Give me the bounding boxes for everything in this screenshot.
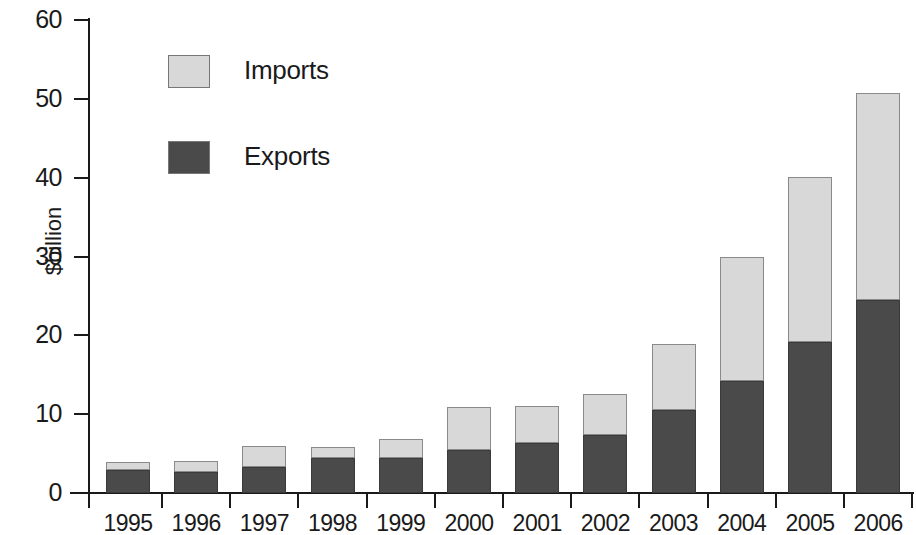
bar-group[interactable] bbox=[652, 20, 696, 493]
x-tick-mark bbox=[366, 494, 368, 508]
x-tick-label: 1999 bbox=[366, 512, 436, 535]
x-tick-mark bbox=[707, 494, 709, 508]
x-tick-mark bbox=[297, 494, 299, 508]
y-tick-label: 40 bbox=[10, 165, 62, 190]
legend-swatch bbox=[168, 141, 210, 174]
bar-group[interactable] bbox=[174, 20, 218, 493]
x-tick-mark bbox=[911, 494, 913, 508]
bar-segment-exports[interactable] bbox=[242, 467, 286, 493]
legend-swatch bbox=[168, 55, 210, 88]
bar-segment-imports[interactable] bbox=[788, 177, 832, 342]
x-tick-label: 2002 bbox=[570, 512, 640, 535]
x-tick-mark bbox=[88, 494, 90, 508]
bar-group[interactable] bbox=[311, 20, 355, 493]
bar-chart: $billion 0102030405060 19951996199719981… bbox=[0, 0, 916, 535]
y-tick-label: 30 bbox=[10, 244, 62, 269]
x-tick-mark bbox=[570, 494, 572, 508]
bar-segment-exports[interactable] bbox=[447, 450, 491, 493]
bar-group[interactable] bbox=[379, 20, 423, 493]
bar-segment-imports[interactable] bbox=[311, 447, 355, 457]
bar-group[interactable] bbox=[856, 20, 900, 493]
bar-group[interactable] bbox=[447, 20, 491, 493]
bar-segment-exports[interactable] bbox=[106, 470, 150, 493]
x-tick-label: 2003 bbox=[639, 512, 709, 535]
bar-segment-exports[interactable] bbox=[515, 443, 559, 493]
x-tick-mark bbox=[843, 494, 845, 508]
x-tick-label: 2005 bbox=[775, 512, 845, 535]
bar-segment-imports[interactable] bbox=[652, 344, 696, 410]
x-tick-label: 2000 bbox=[434, 512, 504, 535]
bar-segment-exports[interactable] bbox=[174, 472, 218, 493]
legend-label: Exports bbox=[244, 140, 330, 173]
x-tick-label: 2004 bbox=[707, 512, 777, 535]
x-tick-label: 1995 bbox=[93, 512, 163, 535]
legend-label: Imports bbox=[244, 54, 329, 87]
bar-segment-imports[interactable] bbox=[174, 461, 218, 472]
bar-segment-imports[interactable] bbox=[379, 439, 423, 457]
x-tick-label: 1997 bbox=[229, 512, 299, 535]
bar-group[interactable] bbox=[720, 20, 764, 493]
bar-group[interactable] bbox=[242, 20, 286, 493]
y-tick-label: 50 bbox=[10, 86, 62, 111]
bar-segment-imports[interactable] bbox=[583, 394, 627, 436]
y-tick-label: 10 bbox=[10, 401, 62, 426]
y-tick-label: 20 bbox=[10, 322, 62, 347]
bar-segment-imports[interactable] bbox=[720, 257, 764, 381]
bar-segment-exports[interactable] bbox=[720, 381, 764, 493]
bar-group[interactable] bbox=[583, 20, 627, 493]
x-tick-mark bbox=[434, 494, 436, 508]
x-tick-label: 1996 bbox=[161, 512, 231, 535]
bar-group[interactable] bbox=[515, 20, 559, 493]
bar-segment-imports[interactable] bbox=[856, 93, 900, 300]
x-tick-mark bbox=[638, 494, 640, 508]
x-tick-label: 2001 bbox=[502, 512, 572, 535]
x-tick-label: 1998 bbox=[298, 512, 368, 535]
bar-segment-exports[interactable] bbox=[856, 300, 900, 493]
bar-segment-exports[interactable] bbox=[652, 410, 696, 493]
x-tick-mark bbox=[161, 494, 163, 508]
bar-segment-exports[interactable] bbox=[311, 458, 355, 493]
bar-segment-imports[interactable] bbox=[242, 446, 286, 467]
bar-segment-imports[interactable] bbox=[106, 462, 150, 470]
bar-segment-imports[interactable] bbox=[447, 407, 491, 450]
bar-segment-exports[interactable] bbox=[788, 342, 832, 493]
plot-area bbox=[88, 20, 908, 493]
y-axis-title: $billion bbox=[43, 181, 65, 301]
x-tick-label: 2006 bbox=[843, 512, 913, 535]
bar-group[interactable] bbox=[788, 20, 832, 493]
x-tick-mark bbox=[502, 494, 504, 508]
x-tick-mark bbox=[229, 494, 231, 508]
y-tick-label: 0 bbox=[10, 480, 62, 505]
bar-segment-imports[interactable] bbox=[515, 406, 559, 443]
bar-group[interactable] bbox=[106, 20, 150, 493]
bar-segment-exports[interactable] bbox=[583, 435, 627, 493]
bar-segment-exports[interactable] bbox=[379, 458, 423, 493]
x-tick-mark bbox=[775, 494, 777, 508]
y-tick-label: 60 bbox=[10, 7, 62, 32]
